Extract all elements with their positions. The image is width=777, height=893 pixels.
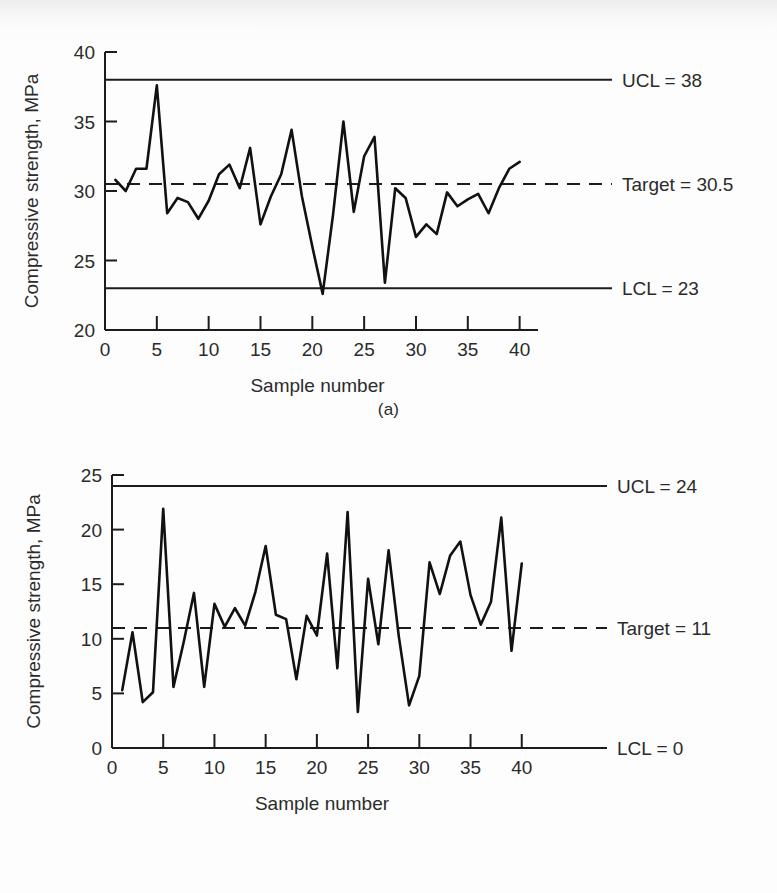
reference-label-target: Target = 30.5 [622,174,733,195]
x-tick-label: 30 [405,339,426,360]
x-tick-label: 0 [107,757,118,778]
control-chart-b: 05101520250510152025303540UCL = 24Target… [0,440,777,893]
x-tick-label: 10 [198,339,219,360]
subcaption-a: (a) [0,400,777,420]
y-tick-label: 5 [91,683,102,704]
figure-a: 20253035400510152025303540UCL = 38Target… [0,0,777,450]
y-tick-label: 30 [74,181,95,202]
x-tick-label: 25 [354,339,375,360]
x-tick-label: 20 [306,757,327,778]
x-tick-label: 40 [511,757,532,778]
x-tick-label: 5 [152,339,163,360]
x-tick-label: 0 [100,339,111,360]
x-axis-title: Sample number [250,375,385,396]
x-tick-label: 15 [255,757,276,778]
control-chart-a: 20253035400510152025303540UCL = 38Target… [0,0,777,450]
y-tick-label: 10 [81,629,102,650]
figure-page: 20253035400510152025303540UCL = 38Target… [0,0,777,893]
x-tick-label: 25 [358,757,379,778]
x-tick-label: 5 [158,757,169,778]
x-tick-label: 35 [457,339,478,360]
data-series-line [115,85,519,293]
reference-label-target: Target = 11 [617,618,711,639]
y-tick-label: 25 [74,251,95,272]
y-axis-title: Compressive strength, MPa [23,494,44,729]
y-tick-label: 35 [74,112,95,133]
x-tick-label: 20 [302,339,323,360]
y-tick-label: 25 [81,465,102,486]
data-series-line [122,509,522,712]
x-tick-label: 15 [250,339,271,360]
x-tick-label: 30 [409,757,430,778]
y-tick-label: 20 [81,520,102,541]
y-tick-label: 20 [74,320,95,341]
y-axis-title: Compressive strength, MPa [21,73,42,308]
figure-b: 05101520250510152025303540UCL = 24Target… [0,440,777,893]
reference-label-lcl: LCL = 0 [617,738,683,759]
x-tick-label: 40 [509,339,530,360]
y-tick-label: 15 [81,574,102,595]
y-tick-label: 40 [74,42,95,63]
x-tick-label: 35 [460,757,481,778]
reference-label-lcl: LCL = 23 [622,278,699,299]
reference-label-ucl: UCL = 24 [617,476,698,497]
x-tick-label: 10 [204,757,225,778]
reference-label-ucl: UCL = 38 [622,70,702,91]
y-tick-label: 0 [91,738,102,759]
x-axis-title: Sample number [255,793,390,814]
